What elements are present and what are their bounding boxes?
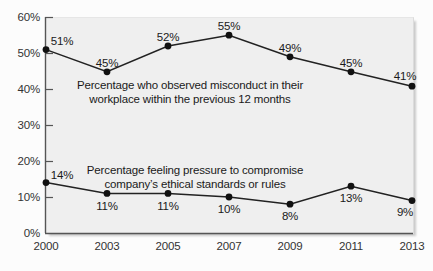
annotation-upper-line1: Percentage who observed misconduct in th… <box>56 78 324 92</box>
annotation-lower-series: Percentage feeling pressure to compromis… <box>66 163 324 191</box>
y-tick-label-30: 30% <box>0 119 40 131</box>
annotation-upper-line2: workplace within the previous 12 months <box>56 92 324 106</box>
line-chart: 60% 50% 40% 30% 20% 10% 0% 2000 2003 200… <box>0 0 433 271</box>
x-tick-label-2000: 2000 <box>24 240 68 252</box>
y-tick-label-60: 60% <box>0 11 40 23</box>
x-tick-label-2009: 2009 <box>268 240 312 252</box>
y-tick-label-0: 0% <box>0 227 40 239</box>
point-label-lower-2003: 11% <box>90 200 124 212</box>
point-label-lower-2005: 11% <box>151 200 185 212</box>
annotation-lower-line1: Percentage feeling pressure to compromis… <box>66 163 324 177</box>
annotation-lower-line2: company’s ethical standards or rules <box>66 177 324 191</box>
point-label-lower-2011: 13% <box>334 192 368 204</box>
point-label-upper-2009: 49% <box>273 42 307 54</box>
point-label-upper-2000: 51% <box>45 35 79 47</box>
point-label-upper-2005: 52% <box>151 31 185 43</box>
y-tick-label-50: 50% <box>0 47 40 59</box>
y-tick-label-40: 40% <box>0 83 40 95</box>
point-label-upper-2013: 41% <box>388 70 422 82</box>
point-label-lower-2007: 10% <box>212 203 246 215</box>
x-tick-label-2003: 2003 <box>85 240 129 252</box>
point-label-lower-2009: 8% <box>273 210 307 222</box>
y-tick-label-10: 10% <box>0 191 40 203</box>
annotation-upper-series: Percentage who observed misconduct in th… <box>56 78 324 106</box>
x-tick-label-2013: 2013 <box>390 240 433 252</box>
point-label-upper-2003: 45% <box>90 57 124 69</box>
x-tick-label-2011: 2011 <box>329 240 373 252</box>
point-label-upper-2007: 55% <box>212 20 246 32</box>
x-tick-label-2007: 2007 <box>207 240 251 252</box>
y-tick-label-20: 20% <box>0 155 40 167</box>
x-tick-label-2005: 2005 <box>146 240 190 252</box>
point-label-lower-2013: 9% <box>388 206 422 218</box>
point-label-upper-2011: 45% <box>334 57 368 69</box>
